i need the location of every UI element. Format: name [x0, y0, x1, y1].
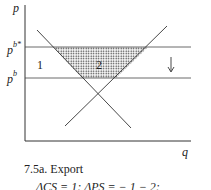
area-1-label: 1 — [37, 59, 43, 71]
caption-title: 7.5a. Export — [24, 163, 83, 175]
caption-formula: ΔCS = 1; ΔPS = − 1 − 2; — [36, 181, 160, 190]
pb-label: pb — [7, 72, 17, 85]
down-arrow-icon — [168, 57, 174, 72]
demand-curve — [37, 30, 131, 128]
x-axis-label: q — [182, 146, 188, 158]
pbstar-label: pb* — [7, 43, 21, 56]
area-2-label: 2 — [96, 59, 102, 71]
y-axis-label: p — [13, 2, 19, 14]
